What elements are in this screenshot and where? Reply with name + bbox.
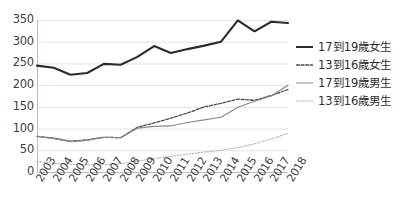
legend-item-4[interactable]: 13到16歲男生: [296, 92, 413, 110]
legend-label: 17到19歲女生: [318, 41, 391, 53]
legend: 17到19歲女生13到16歲女生17到19歲男生13到16歲男生: [296, 38, 413, 110]
legend-item-1[interactable]: 17到19歲女生: [296, 38, 413, 56]
legend-item-3[interactable]: 17到19歲男生: [296, 74, 413, 92]
line-key-solid-thin-icon: [296, 77, 313, 89]
legend-label: 13到16歲女生: [318, 59, 391, 71]
line-chart: 050100150200250300350 200320042005200620…: [0, 0, 413, 221]
legend-label: 17到19歲男生: [318, 77, 391, 89]
legend-label: 13到16歲男生: [318, 95, 391, 107]
line-key-dashed-icon: [296, 59, 313, 71]
x-axis: 2003200420052006200720082009201020112012…: [0, 0, 300, 221]
plot-area: 050100150200250300350 200320042005200620…: [0, 0, 300, 221]
line-key-solid-thick-icon: [296, 41, 313, 53]
line-key-dotted-icon: [296, 95, 313, 107]
legend-item-2[interactable]: 13到16歲女生: [296, 56, 413, 74]
